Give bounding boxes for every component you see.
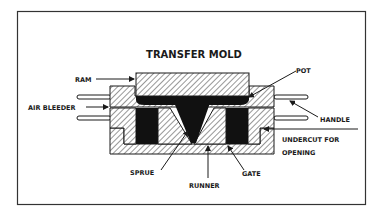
label-handle: HANDLE	[320, 116, 350, 124]
label-sprue: SPRUE	[130, 169, 154, 177]
label-undercut-2: OPENING	[282, 149, 315, 157]
diagram-title: TRANSFER MOLD	[146, 49, 242, 60]
cavity-right	[226, 108, 248, 144]
transfer-mold-diagram: TRANSFER MOLD RAM POT AIR BLEEDER HANDLE	[0, 0, 383, 217]
label-ram: RAM	[75, 76, 92, 84]
cavity-left	[136, 108, 158, 144]
label-gate: GATE	[242, 170, 261, 178]
label-undercut-1: UNDERCUT FOR	[282, 136, 339, 144]
label-pot: POT	[296, 67, 311, 75]
ram	[136, 73, 249, 96]
label-runner: RUNNER	[189, 182, 220, 190]
label-air-bleeder: AIR BLEEDER	[28, 104, 76, 112]
